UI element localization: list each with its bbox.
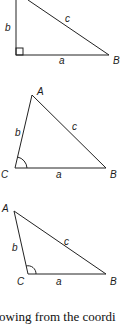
right-triangle-figure <box>16 0 109 55</box>
obtuse-triangle-figure <box>14 211 106 274</box>
label-c: c <box>64 236 69 247</box>
label-a: a <box>59 55 65 66</box>
acute-triangle-figure <box>15 95 106 168</box>
label-b: b <box>5 22 11 33</box>
angle-C-arc <box>18 157 28 168</box>
label-B: B <box>113 55 120 66</box>
label-b: b <box>12 242 18 253</box>
triangle-figures: b c a B A b c C a B A b c C a B <box>0 0 122 326</box>
body-text-fragment: owing from the coordi <box>0 309 116 325</box>
label-C: C <box>17 276 25 287</box>
label-B: B <box>110 276 117 287</box>
label-A: A <box>36 86 44 97</box>
label-c: c <box>72 121 77 132</box>
label-b: b <box>15 127 21 138</box>
label-a: a <box>56 169 62 180</box>
label-A: A <box>1 203 9 214</box>
right-angle-marker <box>16 48 23 55</box>
side-c <box>14 211 106 274</box>
label-c: c <box>65 13 70 24</box>
side-c <box>32 95 106 168</box>
label-C: C <box>1 169 9 180</box>
side-c <box>28 0 109 55</box>
label-B: B <box>110 169 117 180</box>
label-a: a <box>56 276 62 287</box>
